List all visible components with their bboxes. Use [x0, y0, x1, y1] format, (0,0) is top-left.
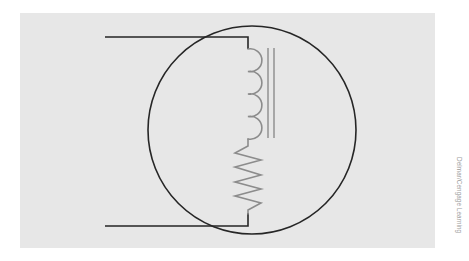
schematic-drawing: [0, 0, 469, 261]
inductor-coil: [248, 49, 262, 140]
credit-line: Delmar/Cengage Learning: [453, 150, 465, 240]
top-terminal-lead: [105, 37, 248, 49]
figure-root: Delmar/Cengage Learning: [0, 0, 469, 261]
credit-text: Delmar/Cengage Learning: [456, 157, 462, 233]
enclosure-circle: [148, 26, 356, 234]
bottom-terminal-lead: [105, 213, 248, 226]
resistor-zigzag: [235, 139, 261, 214]
